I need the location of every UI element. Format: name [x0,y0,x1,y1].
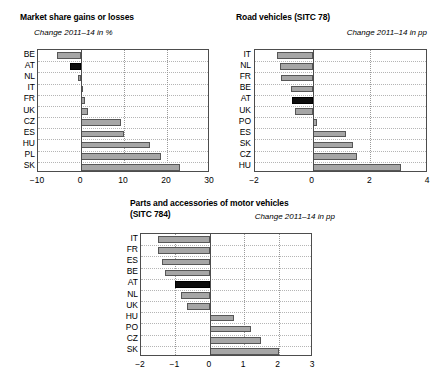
grid-row-line [255,72,426,73]
y-tick-label-sk: SK [240,139,251,148]
y-tick-label-cz: CZ [127,334,138,343]
x-axis-labels: −2024 [254,175,427,187]
chart-subtitle: Change 2011–14 in % [34,27,113,38]
y-tick-label-es: ES [24,128,35,137]
x-tick-label: −2 [135,359,145,369]
x-tick-label: 4 [425,175,430,185]
x-tick-label: 0 [78,175,83,185]
chart-title: Road vehicles (SITC 78) [236,12,330,23]
grid-row-line [38,106,208,107]
chart-title-line2: (SITC 784) [130,209,171,220]
x-tick-label: 0 [309,175,314,185]
grid-row-line [255,106,426,107]
bar-uk [81,108,88,115]
y-tick-label-sk: SK [24,161,35,170]
grid-row-line [38,84,208,85]
y-tick-label-hu: HU [239,161,251,170]
y-tick-label-pl: PL [25,150,35,159]
bar-sk [81,164,180,171]
bar-be [57,52,81,59]
y-tick-label-es: ES [240,128,251,137]
y-tick-label-nl: NL [240,61,251,70]
chart-panel-market-share: Market share gains or losses Change 2011… [0,0,218,192]
x-tick-label: 2 [367,175,372,185]
y-tick-label-be: BE [24,50,35,59]
zero-axis-line [313,50,314,171]
bar-uk [295,108,312,115]
x-tick-label: 1 [241,359,246,369]
y-tick-label-at: AT [241,94,251,103]
y-tick-label-uk: UK [126,301,138,310]
grid-line [279,234,280,355]
y-tick-label-it: IT [27,83,35,92]
y-tick-label-be: BE [127,267,138,276]
grid-row-line [38,117,208,118]
bar-fr [158,247,210,254]
grid-row-line [141,335,311,336]
grid-row-line [141,323,311,324]
y-tick-label-at: AT [25,61,35,70]
x-axis-labels: −2−10123 [140,359,312,371]
bar-at [70,63,81,70]
y-tick-label-cz: CZ [24,117,35,126]
y-tick-label-uk: UK [239,106,251,115]
bar-at [292,97,312,104]
bar-po [210,326,251,333]
plot-area [254,49,427,172]
x-axis-labels: −100102030 [37,175,209,187]
y-tick-label-hu: HU [23,139,35,148]
bar-fr [281,75,313,82]
y-tick-label-nl: NL [24,72,35,81]
grid-row-line [255,95,426,96]
x-tick-label: 0 [206,359,211,369]
bar-cz [313,153,358,160]
bar-be [291,86,313,93]
y-tick-label-hu: HU [126,312,138,321]
bar-es [81,131,124,138]
y-tick-label-it: IT [243,50,251,59]
bar-cz [81,119,121,126]
bar-sk [313,142,353,149]
grid-row-line [38,128,208,129]
zero-axis-line [210,234,211,355]
chart-panel-parts-accessories: Parts and accessories of motor vehicles … [109,195,341,387]
grid-row-line [141,312,311,313]
y-axis-labels: ITFRESBEATNLUKHUPOCZSK [109,233,138,356]
chart-subtitle: Change 2011–14 in pp [347,27,427,38]
grid-row-line [38,151,208,152]
grid-row-line [38,95,208,96]
chart-subtitle: Change 2011–14 in pp [255,211,335,222]
zero-axis-line [81,50,82,171]
chart-panel-road-vehicles: Road vehicles (SITC 78) Change 2011–14 i… [218,0,436,192]
y-axis-labels: ITNLFRBEATUKPOESSKCZHU [223,49,251,172]
chart-title: Market share gains or losses [20,12,134,23]
bar-hu [313,164,401,171]
x-tick-label: 20 [161,175,170,185]
x-tick-label: −1 [170,359,180,369]
x-tick-label: −2 [249,175,259,185]
y-tick-label-sk: SK [127,345,138,354]
grid-row-line [38,139,208,140]
chart-title-line1: Parts and accessories of motor vehicles [130,198,289,209]
y-tick-label-po: PO [239,117,251,126]
y-tick-label-at: AT [128,278,138,287]
x-tick-label: 30 [204,175,213,185]
bar-be [165,270,210,277]
x-tick-label: −10 [30,175,44,185]
x-tick-label: 10 [118,175,127,185]
bar-hu [210,315,234,322]
grid-row-line [141,290,311,291]
plot-area [37,49,209,172]
y-tick-label-uk: UK [23,106,35,115]
grid-line [370,50,371,171]
grid-row-line [255,117,426,118]
bar-it [277,52,313,59]
bar-nl [280,63,313,70]
bar-uk [187,303,209,310]
y-tick-label-fr: FR [24,94,35,103]
y-tick-label-cz: CZ [240,150,251,159]
grid-row-line [141,268,311,269]
y-tick-label-fr: FR [240,72,251,81]
y-tick-label-po: PO [126,323,138,332]
y-tick-label-nl: NL [127,290,138,299]
